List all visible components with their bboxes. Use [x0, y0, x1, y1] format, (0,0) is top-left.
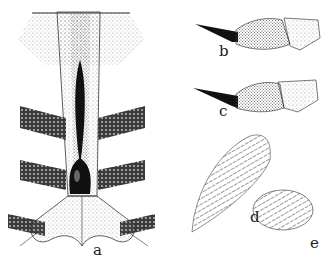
mesh-band	[20, 106, 66, 140]
mesh-band	[20, 160, 66, 190]
bulb-highlight	[74, 170, 80, 182]
claw-c	[193, 88, 238, 108]
claw-b	[195, 24, 238, 42]
panel-b	[195, 18, 320, 50]
segment-c-2	[278, 80, 318, 112]
basal-plate	[30, 196, 135, 246]
panel-a	[8, 12, 155, 246]
panel-label-d: d	[250, 210, 260, 225]
panel-e	[253, 190, 313, 230]
panel-label-a: a	[93, 243, 102, 258]
figure-canvas	[0, 0, 330, 266]
panel-label-c: c	[219, 104, 227, 119]
mesh-band	[98, 160, 145, 190]
segment-b-2	[284, 18, 320, 50]
mesh-band	[98, 106, 145, 140]
plate-right-edge	[128, 232, 148, 246]
segment-b-1	[236, 18, 290, 49]
segment-c-1	[236, 82, 284, 111]
panel-c	[193, 80, 318, 112]
panel-label-b: b	[219, 44, 229, 59]
setose-lobe-e	[253, 190, 313, 230]
panel-label-e: e	[310, 236, 319, 251]
